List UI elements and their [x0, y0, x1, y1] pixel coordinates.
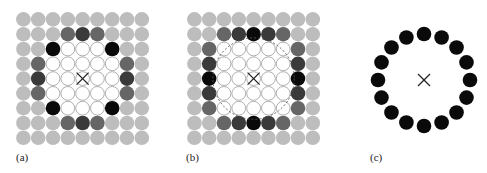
- pixel-circle-background: [75, 131, 90, 146]
- pixel-circle-dark: [75, 116, 90, 131]
- pixel-circle-background: [46, 12, 61, 27]
- pixel-circle-white: [105, 72, 119, 86]
- pixel-circle-mid: [61, 116, 76, 131]
- pixel-circle-mid: [90, 27, 105, 42]
- pixel-circle-black: [291, 71, 306, 86]
- pixel-circle-white: [262, 87, 276, 101]
- pixel-circle-background: [232, 12, 247, 27]
- pixel-circle-white: [247, 87, 261, 101]
- pixel-circle-background: [306, 131, 321, 146]
- pixel-circle-background: [135, 42, 150, 57]
- pixel-circle-background: [31, 116, 46, 131]
- pixel-circle-white: [76, 87, 90, 101]
- pixel-circle-white: [276, 57, 290, 71]
- pixel-circle-background: [306, 71, 321, 86]
- pixel-circle-black: [46, 101, 61, 116]
- pixel-circle-background: [291, 12, 306, 27]
- pixel-circle-white: [76, 42, 90, 56]
- pixel-circle-background: [306, 86, 321, 101]
- pixel-circle-white: [91, 72, 105, 86]
- pixel-circle-mid: [120, 57, 135, 72]
- pixel-circle-white: [247, 42, 261, 56]
- pixel-circle-white: [91, 87, 105, 101]
- ring-circle: [417, 119, 432, 134]
- pixel-circle-mid: [90, 116, 105, 131]
- pixel-circle-white: [61, 87, 75, 101]
- pixel-circle-white: [61, 57, 75, 71]
- ring-circle: [434, 115, 449, 130]
- pixel-circle-white: [46, 72, 60, 86]
- pixel-circle-mid: [291, 101, 306, 116]
- panel-b-label: (b): [186, 151, 199, 163]
- pixel-circle-white: [247, 57, 261, 71]
- pixel-circle-background: [187, 86, 202, 101]
- pixel-circle-white: [105, 57, 119, 71]
- pixel-circle-background: [31, 12, 46, 27]
- pixel-circle-background: [187, 71, 202, 86]
- pixel-circle-background: [90, 12, 105, 27]
- pixel-circle-white: [217, 57, 231, 71]
- pixel-circle-mid: [31, 86, 46, 101]
- pixel-circle-background: [16, 12, 31, 27]
- pixel-circle-background: [276, 12, 291, 27]
- pixel-circle-white: [232, 42, 246, 56]
- ring-circle: [374, 55, 389, 70]
- pixel-circle-background: [16, 101, 31, 116]
- pixel-circle-black: [202, 71, 217, 86]
- pixel-circle-background: [187, 27, 202, 42]
- pixel-circle-mid: [202, 101, 217, 116]
- pixel-circle-black: [46, 42, 61, 57]
- pixel-circle-background: [16, 27, 31, 42]
- pixel-circle-background: [135, 101, 150, 116]
- pixel-circle-dark: [31, 71, 46, 86]
- pixel-circle-white: [262, 101, 276, 115]
- pixel-circle-background: [246, 131, 261, 146]
- pixel-circle-white: [76, 57, 90, 71]
- pixel-circle-white: [61, 42, 75, 56]
- pixel-circle-background: [135, 86, 150, 101]
- pixel-circle-white: [232, 101, 246, 115]
- pixel-circle-background: [16, 86, 31, 101]
- pixel-circle-background: [291, 27, 306, 42]
- pixel-circle-background: [261, 131, 276, 146]
- pixel-circle-white: [276, 42, 290, 56]
- ring-circle: [374, 90, 389, 105]
- pixel-circle-background: [105, 116, 120, 131]
- pixel-circle-background: [291, 131, 306, 146]
- pixel-circle-white: [61, 72, 75, 86]
- pixel-circle-mid: [276, 27, 291, 42]
- pixel-circle-white: [217, 42, 231, 56]
- pixel-circle-mid: [61, 27, 76, 42]
- pixel-circle-mid: [202, 42, 217, 57]
- figure-svg: [0, 0, 487, 173]
- pixel-circle-white: [262, 57, 276, 71]
- pixel-circle-white: [91, 42, 105, 56]
- ring-circle: [459, 90, 474, 105]
- pixel-circle-background: [75, 12, 90, 27]
- pixel-circle-background: [16, 57, 31, 72]
- pixel-circle-white: [46, 87, 60, 101]
- pixel-circle-background: [31, 42, 46, 57]
- ring-circle: [399, 115, 414, 130]
- pixel-circle-mid: [120, 86, 135, 101]
- pixel-circle-background: [276, 131, 291, 146]
- pixel-circle-background: [306, 101, 321, 116]
- pixel-circle-white: [232, 87, 246, 101]
- pixel-circle-background: [202, 27, 217, 42]
- pixel-circle-dark: [120, 71, 135, 86]
- pixel-circle-background: [135, 12, 150, 27]
- ring-circle: [449, 105, 464, 120]
- pixel-circle-white: [91, 57, 105, 71]
- ring-circle: [371, 73, 386, 88]
- pixel-circle-white: [232, 57, 246, 71]
- pixel-circle-background: [135, 131, 150, 146]
- pixel-circle-background: [306, 12, 321, 27]
- pixel-circle-background: [120, 42, 135, 57]
- pixel-circle-background: [135, 71, 150, 86]
- pixel-circle-white: [217, 87, 231, 101]
- pixel-circle-mid: [217, 27, 232, 42]
- pixel-circle-background: [187, 42, 202, 57]
- pixel-circle-white: [247, 101, 261, 115]
- pixel-circle-background: [187, 116, 202, 131]
- pixel-circle-background: [187, 57, 202, 72]
